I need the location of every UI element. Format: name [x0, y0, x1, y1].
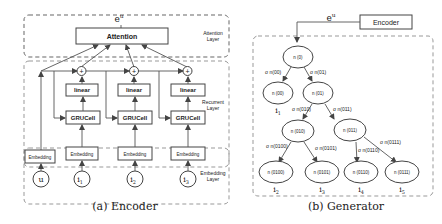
tree-node-0101: n (0101)	[305, 161, 339, 183]
svg-text:linear: linear	[180, 87, 197, 93]
leaf-label-i3: i3	[319, 185, 325, 195]
gru-cell-2: GRUCell	[118, 111, 152, 124]
edge-label-0110: σ n(0110)	[358, 147, 380, 153]
embedding-layer-label: EmbeddingLayer	[200, 170, 226, 182]
svg-text:+: +	[132, 68, 136, 75]
svg-text:GRUCell: GRUCell	[71, 115, 96, 121]
plus-node-1: +	[77, 67, 86, 76]
gru-cell-3: GRUCell	[171, 111, 205, 124]
attention-label: Attention	[107, 33, 138, 40]
linear-box-2: linear	[118, 84, 150, 96]
svg-text:Embedding: Embedding	[124, 152, 147, 157]
tree-node-0111: n (0111)	[385, 161, 419, 183]
generator-caption: (b) Generator	[308, 200, 385, 213]
svg-text:n (0100): n (0100)	[268, 170, 285, 175]
svg-text:n (0): n (0)	[293, 55, 303, 60]
attention-layer-label: AttentionLayer	[203, 30, 223, 42]
input-node-i3: i3	[180, 171, 196, 187]
svg-text:n (0101): n (0101)	[314, 170, 331, 175]
svg-text:Embedding: Embedding	[29, 155, 52, 160]
svg-text:GRUCell: GRUCell	[123, 115, 148, 121]
leaf-label-i5: i5	[399, 185, 405, 195]
encoder-caption: (a) Encoder	[92, 200, 158, 213]
svg-text:n (00): n (00)	[272, 91, 284, 96]
leaf-label-i1: i1	[275, 106, 281, 116]
edge-label-01: σ n(01)	[310, 69, 326, 75]
embedding-box-i2: Embedding	[118, 147, 152, 160]
svg-text:n (010): n (010)	[291, 129, 306, 134]
svg-text:Encoder: Encoder	[373, 19, 400, 26]
generator-diagram: Encoder eu σ n(00) σ n(01) σ n(010) σ n(…	[253, 11, 433, 213]
edge-label-00: σ n(00)	[265, 69, 281, 75]
svg-text:GRUCell: GRUCell	[176, 115, 201, 121]
generator-input-label: eu	[326, 11, 335, 23]
svg-text:n (011): n (011)	[343, 128, 357, 133]
svg-text:u: u	[38, 175, 43, 184]
embedding-box-u: Embedding	[25, 150, 55, 163]
svg-text:+: +	[185, 68, 189, 75]
tree-node-0: n (0)	[283, 46, 313, 68]
encoder-output-label: eu	[114, 12, 123, 24]
tree-node-0110: n (0110)	[344, 161, 378, 183]
embedding-box-i3: Embedding	[171, 147, 205, 160]
input-node-u: u	[33, 171, 49, 187]
tree-node-0100: n (0100)	[259, 161, 293, 183]
edge-label-0100: σ n(0100)	[266, 143, 288, 149]
svg-text:Embedding: Embedding	[177, 152, 200, 157]
svg-text:n (0111): n (0111)	[394, 170, 411, 175]
input-node-i1: i1	[74, 171, 90, 187]
svg-text:linear: linear	[126, 87, 143, 93]
recurrent-layer-label: RecurrentLayer	[202, 99, 225, 111]
encoder-diagram: AttentionLayer RecurrentLayer EmbeddingL…	[24, 12, 229, 213]
input-node-i2: i2	[127, 171, 143, 187]
leaf-label-i2: i2	[273, 185, 279, 195]
svg-text:linear: linear	[74, 87, 91, 93]
svg-text:n (01): n (01)	[312, 91, 324, 96]
edge-label-0111: σ n(0111)	[380, 139, 401, 145]
leaf-label-i4: i4	[358, 185, 364, 195]
edge-label-010: σ n(010)	[292, 106, 311, 112]
linear-box-3: linear	[171, 84, 205, 96]
edge-label-011: σ n(011)	[333, 106, 352, 112]
figure: AttentionLayer RecurrentLayer EmbeddingL…	[0, 0, 442, 224]
tree-node-00: n (00)	[263, 82, 293, 104]
plus-node-3: +	[183, 67, 192, 76]
tree-node-010: n (010)	[282, 120, 314, 142]
tree-node-01: n (01)	[303, 82, 333, 104]
plus-node-2: +	[130, 67, 139, 76]
embedding-box-i1: Embedding	[66, 147, 98, 160]
linear-box-1: linear	[66, 84, 98, 96]
svg-text:Embedding: Embedding	[71, 152, 94, 157]
gru-cell-1: GRUCell	[66, 111, 100, 124]
tree-node-011: n (011)	[334, 119, 366, 141]
edge-label-0101: σ n(0101)	[315, 145, 337, 151]
svg-text:+: +	[79, 68, 83, 75]
encoder-box: Encoder	[360, 15, 412, 29]
svg-text:n (0110): n (0110)	[353, 170, 370, 175]
